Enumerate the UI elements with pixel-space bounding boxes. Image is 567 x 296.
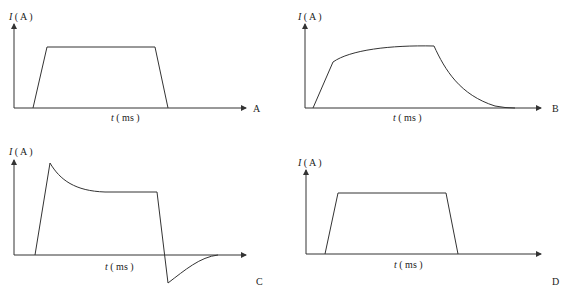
y-unit: ( A ) (15, 146, 33, 157)
current-curve (313, 46, 515, 108)
panel-b-x-label: t ( ms ) (393, 112, 422, 123)
x-var: t (105, 261, 108, 272)
diagram-canvas (0, 0, 567, 296)
y-unit: ( A ) (304, 157, 322, 168)
y-var: I (9, 146, 12, 157)
panel-d-graph (306, 170, 541, 254)
y-var: I (9, 11, 12, 22)
y-unit: ( A ) (15, 11, 33, 22)
x-unit: ( ms ) (116, 112, 139, 123)
y-var: I (298, 157, 301, 168)
panel-c-x-label: t ( ms ) (105, 261, 134, 272)
panel-a-graph (14, 24, 246, 108)
current-curve (325, 193, 458, 254)
panel-a-y-label: I ( A ) (9, 11, 33, 22)
x-var: t (393, 112, 396, 123)
panel-a-letter: A (253, 103, 260, 114)
x-unit: ( ms ) (110, 261, 133, 272)
x-unit: ( ms ) (399, 259, 422, 270)
x-var: t (394, 259, 397, 270)
y-unit: ( A ) (304, 11, 322, 22)
x-unit: ( ms ) (398, 112, 421, 123)
panel-a-x-label: t ( ms ) (111, 112, 140, 123)
panel-b-y-label: I ( A ) (298, 11, 322, 22)
panel-d-letter: D (552, 276, 559, 287)
panel-d-x-label: t ( ms ) (394, 259, 423, 270)
panel-c-y-label: I ( A ) (9, 146, 33, 157)
current-curve (33, 47, 168, 108)
x-var: t (111, 112, 114, 123)
panel-b-graph (305, 24, 541, 108)
y-var: I (298, 11, 301, 22)
panel-b-letter: B (552, 103, 559, 114)
panel-c-letter: C (256, 276, 263, 287)
panel-d-y-label: I ( A ) (298, 157, 322, 168)
